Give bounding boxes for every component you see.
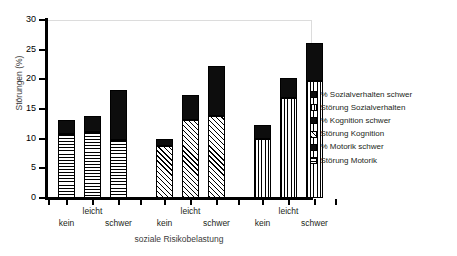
bar-segment-schwer	[58, 120, 75, 134]
x-axis-tick-label: leicht	[70, 206, 116, 216]
x-axis-tick	[314, 199, 316, 205]
legend-item-label: % Sozialverhalten schwer	[321, 91, 413, 99]
y-axis-tick-label: 25	[14, 45, 36, 54]
bar-segment-stoerung	[156, 146, 173, 198]
x-axis-tick	[262, 199, 264, 205]
bar-segment-schwer	[110, 90, 127, 140]
y-axis-tick-label: 10	[14, 134, 36, 143]
x-axis-tick-label: schwer	[292, 218, 338, 228]
x-axis-group-tick	[335, 199, 337, 205]
x-axis-tick	[216, 199, 218, 205]
y-axis-tick-label: 15	[14, 104, 36, 113]
x-axis-tick-label: kein	[240, 218, 286, 228]
bar-segment-schwer	[254, 125, 271, 139]
bar-sozialverhalten-leicht	[280, 78, 297, 198]
y-axis-tick	[39, 49, 46, 51]
x-axis-tick	[118, 199, 120, 205]
legend-swatch-diagonal-hatch	[310, 131, 317, 138]
x-axis-tick	[92, 199, 94, 205]
y-axis-tick	[39, 108, 46, 110]
y-axis-tick-label: 5	[14, 163, 36, 172]
legend-swatch-horizontal-lines	[310, 157, 317, 164]
bar-kognition-kein	[156, 139, 173, 198]
y-axis-tick	[39, 78, 46, 80]
bar-segment-stoerung	[110, 140, 127, 198]
bar-segment-schwer	[182, 95, 199, 121]
bar-segment-stoerung	[58, 134, 75, 198]
y-axis-tick-label: 20	[14, 74, 36, 83]
x-axis-label: soziale Risikobelastung	[46, 234, 312, 244]
bar-segment-stoerung	[84, 132, 101, 198]
bar-segment-stoerung	[208, 116, 225, 198]
bar-kognition-leicht	[182, 95, 199, 198]
legend-item-label: % Motorik schwer	[321, 143, 384, 151]
bar-motorik-leicht	[84, 116, 101, 198]
legend-item-label: Störung Motorik	[321, 157, 377, 165]
legend-swatch-solid-black	[310, 117, 317, 124]
y-axis-tick	[39, 19, 46, 21]
x-axis-group-tick	[140, 199, 142, 205]
chart-legend: % Sozialverhalten schwerStörung Sozialve…	[310, 88, 412, 167]
bar-sozialverhalten-kein	[254, 125, 271, 198]
legend-item-label: % Kognition schwer	[321, 117, 391, 125]
x-axis-tick-label: kein	[142, 218, 188, 228]
x-axis-tick	[190, 199, 192, 205]
y-axis-tick-label: 30	[14, 15, 36, 24]
legend-item: % Motorik schwer	[310, 141, 412, 154]
y-axis-tick	[39, 167, 46, 169]
legend-item: Störung Kognition	[310, 128, 412, 141]
x-axis-tick-label: leicht	[168, 206, 214, 216]
x-axis-tick	[164, 199, 166, 205]
x-axis-tick-label: schwer	[194, 218, 240, 228]
legend-swatch-vertical-lines	[310, 104, 317, 111]
bar-motorik-kein	[58, 120, 75, 198]
bar-segment-schwer	[208, 66, 225, 115]
legend-item: % Kognition schwer	[310, 114, 412, 127]
y-axis-tick	[39, 138, 46, 140]
x-axis-tick	[66, 199, 68, 205]
y-axis-tick	[39, 197, 46, 199]
legend-item: % Sozialverhalten schwer	[310, 88, 412, 101]
bar-segment-schwer	[84, 116, 101, 132]
y-axis-tick-label: 0	[14, 193, 36, 202]
bar-kognition-schwer	[208, 66, 225, 198]
bar-segment-schwer	[156, 139, 173, 146]
legend-item-label: Störung Kognition	[321, 130, 385, 138]
bar-segment-schwer	[306, 43, 323, 81]
legend-item-label: Störung Sozialverhalten	[321, 104, 406, 112]
bar-segment-stoerung	[280, 98, 297, 198]
legend-item: Störung Motorik	[310, 154, 412, 167]
x-axis-tick-label: leicht	[266, 206, 312, 216]
bar-segment-schwer	[280, 78, 297, 98]
x-axis-tick-label: schwer	[96, 218, 142, 228]
x-axis-group-tick	[238, 199, 240, 205]
bar-segment-stoerung	[182, 120, 199, 198]
x-axis-tick-label: kein	[44, 218, 90, 228]
x-axis-group-tick	[48, 199, 50, 205]
legend-swatch-solid-black	[310, 144, 317, 151]
legend-item: Störung Sozialverhalten	[310, 101, 412, 114]
chart-figure: Störungen (%) 051015202530 keinleichtsch…	[0, 0, 457, 256]
x-axis-tick	[288, 199, 290, 205]
legend-swatch-solid-black	[310, 91, 317, 98]
bar-segment-stoerung	[254, 139, 271, 198]
bar-motorik-schwer	[110, 90, 127, 198]
